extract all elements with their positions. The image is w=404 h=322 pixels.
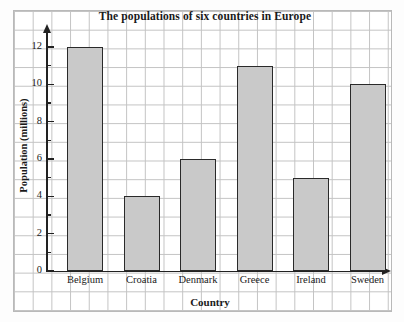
y-tick-minor	[46, 252, 51, 253]
bar-greece	[237, 66, 273, 271]
chart-title: The populations of six countries in Euro…	[98, 10, 312, 22]
y-tick-label: 10	[20, 77, 42, 88]
y-axis-arrow-icon	[43, 24, 51, 33]
chart-screenshot: The populations of six countries in Euro…	[0, 0, 404, 322]
y-tick-major	[46, 233, 54, 234]
y-tick-label: 0	[20, 264, 42, 275]
y-tick-label: 8	[20, 115, 42, 126]
bar-ireland	[293, 178, 329, 271]
x-tick-label-denmark: Denmark	[170, 274, 226, 285]
y-tick-minor	[46, 177, 51, 178]
y-tick-major	[46, 158, 54, 159]
bar-sweden	[350, 84, 386, 271]
y-tick-minor	[46, 65, 51, 66]
y-tick-label: 6	[20, 152, 42, 163]
x-tick-label-sweden: Sweden	[340, 274, 396, 285]
bar-belgium	[67, 47, 103, 271]
y-tick-minor	[46, 102, 51, 103]
y-tick-major	[46, 46, 54, 47]
bar-denmark	[180, 159, 216, 271]
y-tick-major	[46, 196, 54, 197]
y-tick-label: 12	[20, 40, 42, 51]
y-tick-label: 4	[20, 189, 42, 200]
y-tick-major	[46, 84, 54, 85]
y-tick-minor	[46, 214, 51, 215]
bar-chart: The populations of six countries in Euro…	[0, 0, 404, 322]
x-axis-title: Country	[140, 296, 280, 308]
y-axis-line	[46, 32, 48, 272]
bar-croatia	[124, 196, 160, 271]
x-tick-label-greece: Greece	[227, 274, 283, 285]
x-tick-label-croatia: Croatia	[114, 274, 170, 285]
y-tick-label: 2	[20, 227, 42, 238]
y-tick-major	[46, 121, 54, 122]
y-tick-minor	[46, 140, 51, 141]
y-tick-major	[46, 270, 54, 271]
x-tick-label-belgium: Belgium	[57, 274, 113, 285]
x-tick-label-ireland: Ireland	[283, 274, 339, 285]
